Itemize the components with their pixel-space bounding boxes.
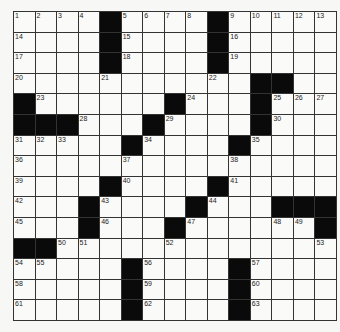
grid-cell[interactable] [251, 197, 272, 217]
grid-cell[interactable]: 8 [186, 12, 207, 32]
grid-cell[interactable]: 21 [100, 74, 121, 94]
grid-cell[interactable]: 28 [79, 115, 100, 135]
grid-cell[interactable] [122, 94, 143, 114]
grid-cell[interactable]: 42 [14, 197, 35, 217]
grid-cell[interactable] [36, 156, 57, 176]
grid-cell[interactable] [100, 239, 121, 259]
grid-cell[interactable]: 46 [100, 218, 121, 238]
grid-cell[interactable]: 41 [229, 177, 250, 197]
grid-cell[interactable]: 38 [229, 156, 250, 176]
grid-cell[interactable]: 51 [79, 239, 100, 259]
grid-cell[interactable] [229, 197, 250, 217]
grid-cell[interactable] [165, 280, 186, 300]
grid-cell[interactable] [36, 197, 57, 217]
grid-cell[interactable]: 17 [14, 53, 35, 73]
grid-cell[interactable] [165, 300, 186, 320]
grid-cell[interactable] [79, 53, 100, 73]
grid-cell[interactable] [294, 74, 315, 94]
grid-cell[interactable] [186, 74, 207, 94]
grid-cell[interactable] [186, 33, 207, 53]
grid-cell[interactable] [36, 218, 57, 238]
grid-cell[interactable]: 25 [272, 94, 293, 114]
grid-cell[interactable] [122, 239, 143, 259]
grid-cell[interactable] [208, 115, 229, 135]
grid-cell[interactable] [208, 156, 229, 176]
grid-cell[interactable] [315, 33, 336, 53]
grid-cell[interactable]: 35 [251, 136, 272, 156]
grid-cell[interactable] [186, 280, 207, 300]
grid-cell[interactable]: 27 [315, 94, 336, 114]
grid-cell[interactable]: 12 [294, 12, 315, 32]
grid-cell[interactable] [229, 94, 250, 114]
grid-cell[interactable] [294, 156, 315, 176]
grid-cell[interactable] [79, 259, 100, 279]
grid-cell[interactable]: 10 [251, 12, 272, 32]
grid-cell[interactable] [315, 74, 336, 94]
grid-cell[interactable] [79, 136, 100, 156]
grid-cell[interactable] [57, 177, 78, 197]
grid-cell[interactable] [100, 94, 121, 114]
grid-cell[interactable]: 1 [14, 12, 35, 32]
grid-cell[interactable] [36, 74, 57, 94]
grid-cell[interactable] [294, 177, 315, 197]
grid-cell[interactable]: 23 [36, 94, 57, 114]
grid-cell[interactable] [165, 53, 186, 73]
grid-cell[interactable]: 50 [57, 239, 78, 259]
grid-cell[interactable]: 30 [272, 115, 293, 135]
grid-cell[interactable] [100, 280, 121, 300]
grid-cell[interactable]: 39 [14, 177, 35, 197]
grid-cell[interactable] [79, 280, 100, 300]
grid-cell[interactable]: 61 [14, 300, 35, 320]
grid-cell[interactable] [57, 74, 78, 94]
grid-cell[interactable]: 19 [229, 53, 250, 73]
grid-cell[interactable]: 45 [14, 218, 35, 238]
grid-cell[interactable]: 3 [57, 12, 78, 32]
grid-cell[interactable]: 63 [251, 300, 272, 320]
grid-cell[interactable] [186, 115, 207, 135]
grid-cell[interactable]: 24 [186, 94, 207, 114]
grid-cell[interactable]: 32 [36, 136, 57, 156]
grid-cell[interactable] [315, 136, 336, 156]
grid-cell[interactable] [36, 280, 57, 300]
grid-cell[interactable] [208, 300, 229, 320]
grid-cell[interactable] [315, 300, 336, 320]
grid-cell[interactable] [208, 94, 229, 114]
grid-cell[interactable] [186, 156, 207, 176]
grid-cell[interactable] [36, 53, 57, 73]
grid-cell[interactable] [272, 156, 293, 176]
grid-cell[interactable]: 6 [143, 12, 164, 32]
grid-cell[interactable] [57, 280, 78, 300]
grid-cell[interactable]: 36 [14, 156, 35, 176]
grid-cell[interactable] [272, 259, 293, 279]
grid-cell[interactable] [143, 177, 164, 197]
grid-cell[interactable]: 60 [251, 280, 272, 300]
grid-cell[interactable] [165, 74, 186, 94]
grid-cell[interactable]: 4 [79, 12, 100, 32]
grid-cell[interactable]: 44 [208, 197, 229, 217]
grid-cell[interactable]: 37 [122, 156, 143, 176]
grid-cell[interactable] [79, 300, 100, 320]
grid-cell[interactable]: 26 [294, 94, 315, 114]
grid-cell[interactable] [186, 53, 207, 73]
grid-cell[interactable] [294, 136, 315, 156]
grid-cell[interactable] [100, 300, 121, 320]
grid-cell[interactable] [251, 177, 272, 197]
grid-cell[interactable] [79, 156, 100, 176]
grid-cell[interactable] [57, 259, 78, 279]
grid-cell[interactable] [208, 239, 229, 259]
grid-cell[interactable]: 15 [122, 33, 143, 53]
grid-cell[interactable] [122, 197, 143, 217]
grid-cell[interactable] [165, 156, 186, 176]
grid-cell[interactable] [186, 239, 207, 259]
grid-cell[interactable]: 14 [14, 33, 35, 53]
grid-cell[interactable]: 40 [122, 177, 143, 197]
grid-cell[interactable] [251, 33, 272, 53]
grid-cell[interactable]: 52 [165, 239, 186, 259]
grid-cell[interactable] [272, 239, 293, 259]
grid-cell[interactable] [143, 239, 164, 259]
grid-cell[interactable]: 34 [143, 136, 164, 156]
grid-cell[interactable]: 57 [251, 259, 272, 279]
grid-cell[interactable] [186, 177, 207, 197]
grid-cell[interactable] [294, 115, 315, 135]
grid-cell[interactable] [229, 218, 250, 238]
